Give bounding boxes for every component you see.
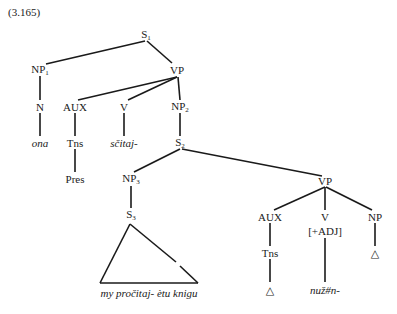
node-np4: NP	[368, 212, 382, 223]
node-np3: NP3	[122, 173, 140, 186]
node-aux2: AUX	[258, 212, 282, 223]
node-s2: S2	[175, 137, 185, 150]
node-aux: AUX	[63, 102, 87, 113]
node-s1: S1	[141, 29, 151, 42]
node-vp2: VP	[318, 176, 332, 187]
node-np2: NP2	[171, 101, 189, 114]
node-tns: Tns	[67, 138, 84, 149]
node-s3: S3	[126, 209, 136, 222]
delta-icon: △	[266, 285, 274, 296]
node-vp: VP	[170, 65, 184, 76]
leaf-pres: Pres	[66, 174, 85, 185]
node-n: N	[36, 102, 44, 113]
triangle-text: my pročitaj- ètu knigu	[100, 288, 197, 299]
leaf-ona: ona	[32, 138, 49, 149]
node-v2: V	[321, 212, 329, 223]
feature-adj: [+ADJ]	[308, 226, 342, 237]
tree-edges	[0, 0, 397, 314]
node-tns2: Tns	[262, 248, 279, 259]
delta-icon: △	[371, 248, 379, 259]
node-v: V	[120, 102, 128, 113]
leaf-nuzn: nuž#n-	[310, 285, 340, 296]
leaf-scitaj: sčitaj-	[110, 138, 138, 149]
node-np1: NP1	[31, 64, 49, 77]
